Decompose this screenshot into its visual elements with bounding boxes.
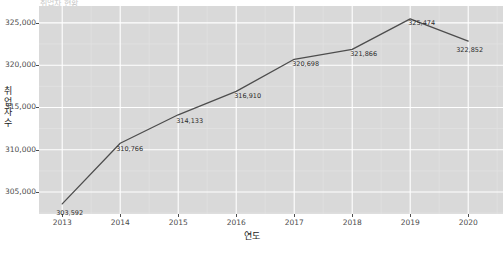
data-point-label: 303,592 [56,210,83,217]
x-tick-mark [468,214,469,217]
y-tick-label: 320,000 [0,61,36,69]
x-tick-label: 2019 [390,218,430,227]
data-point-label: 321,866 [350,51,377,58]
x-tick-mark [236,214,237,217]
y-tick-label: 315,000 [0,103,36,111]
data-point-label: 310,766 [116,146,143,153]
x-tick-label: 2013 [42,218,82,227]
data-point-label: 325,474 [408,20,435,27]
data-point-label: 314,133 [176,118,203,125]
x-tick-mark [352,214,353,217]
x-tick-mark [120,214,121,217]
x-tick-mark [178,214,179,217]
y-axis-ticks: 305,000310,000315,000320,000325,000 [0,0,36,254]
plot-svg [39,6,503,214]
y-tick-label: 310,000 [0,146,36,154]
x-tick-label: 2018 [332,218,372,227]
y-tick-label: 305,000 [0,188,36,196]
x-tick-mark [410,214,411,217]
x-tick-label: 2016 [216,218,256,227]
data-point-label: 322,852 [456,47,483,54]
x-tick-mark [294,214,295,217]
x-tick-label: 2015 [158,218,198,227]
chart-container: 취업자 현황 취 업 자 수 305,000310,000315,000320,… [0,0,504,254]
x-tick-label: 2020 [448,218,488,227]
data-point-label: 320,698 [292,61,319,68]
data-point-label: 316,910 [234,93,261,100]
plot-panel [39,6,503,214]
x-tick-label: 2014 [100,218,140,227]
x-tick-label: 2017 [274,218,314,227]
minor-gridlines [39,6,503,214]
x-axis-title: 연도 [0,231,504,242]
y-tick-label: 325,000 [0,19,36,27]
major-gridlines [39,6,503,214]
